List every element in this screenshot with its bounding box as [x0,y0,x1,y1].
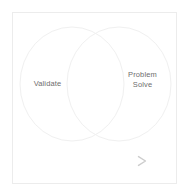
venn-diagram-graphic [0,0,190,196]
venn-label-left: Validate [20,79,75,89]
venn-label-right: Problem Solve [115,70,170,89]
venn-diagram-container: Validate Problem Solve [0,0,190,196]
right-arrow-icon [45,157,146,166]
